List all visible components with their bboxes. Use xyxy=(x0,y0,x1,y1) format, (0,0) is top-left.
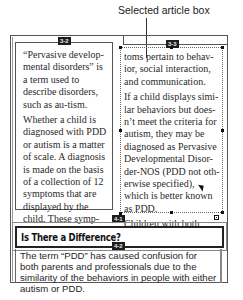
resize-handle-top-right[interactable] xyxy=(221,46,224,49)
resize-handle-bottom-center[interactable] xyxy=(170,211,173,214)
resize-handle-middle-right[interactable] xyxy=(221,129,224,132)
resize-handle-top-center[interactable] xyxy=(170,46,173,49)
article-left-paragraph-1: “Pervasive develop-mental disorders” is … xyxy=(23,49,109,111)
text-frame-3-2[interactable]: “Pervasive develop-mental disorders” is … xyxy=(15,42,113,210)
overflow-port-icon[interactable] xyxy=(214,215,219,220)
resize-handle-top-left[interactable] xyxy=(119,46,122,49)
body-story-text: The term “PDD” has caused confusion for … xyxy=(20,250,216,294)
article-right-paragraph-2: If a child displays simi-lar behaviors b… xyxy=(124,91,220,215)
text-frame-3-3-selected[interactable]: toms pertain to behav-ior, social intera… xyxy=(120,47,223,213)
resize-handle-middle-left[interactable] xyxy=(119,129,122,132)
resize-handle-bottom-right[interactable] xyxy=(221,211,224,214)
body-text-frame[interactable]: The term “PDD” has caused confusion for … xyxy=(15,249,222,283)
article-left-paragraph-2: Whether a child is diagnosed with PDD or… xyxy=(23,114,109,226)
frame-label-3-2: 3-2 xyxy=(58,37,71,45)
callout-selected-article-box: Selected article box xyxy=(118,4,210,16)
article-right-paragraph-1: toms pertain to behav-ior, social intera… xyxy=(124,51,220,88)
headline-text: Is There a Difference? xyxy=(21,230,192,246)
